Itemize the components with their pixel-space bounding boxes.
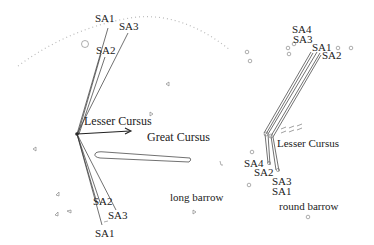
label-lesser-cursus-right: Lesser Cursus bbox=[277, 137, 339, 149]
marker-icon bbox=[104, 221, 108, 222]
label-sa2-top: SA2 bbox=[322, 49, 342, 61]
marker-icon bbox=[220, 161, 223, 165]
sightline-diagram: SA1 SA3 SA2 Lesser Cursus Great Cursus l… bbox=[0, 0, 374, 245]
marker-icon bbox=[166, 82, 169, 86]
sightline-sa4-bottom bbox=[265, 134, 268, 163]
label-sa3-top: SA3 bbox=[119, 20, 139, 32]
label-sa1-top: SA1 bbox=[95, 12, 115, 24]
label-sa1-bottom: SA1 bbox=[272, 185, 292, 197]
sightline-sa2-bottom bbox=[268, 134, 270, 165]
sightline-sa2-top bbox=[271, 53, 320, 136]
great-cursus-shape bbox=[95, 152, 191, 162]
left-panel: SA1 SA3 SA2 Lesser Cursus Great Cursus l… bbox=[33, 12, 224, 239]
barrow-circle bbox=[286, 46, 290, 50]
label-sa3-bottom: SA3 bbox=[108, 209, 128, 221]
label-long-barrow: long barrow bbox=[170, 191, 224, 203]
sightline-sa1-top bbox=[268, 52, 317, 134]
sightline-extra-top bbox=[273, 55, 321, 137]
label-sa2-top: SA2 bbox=[96, 44, 116, 56]
barrow-circle bbox=[287, 52, 291, 56]
barrow-circle bbox=[247, 183, 251, 187]
label-sa1-bottom: SA1 bbox=[95, 227, 115, 239]
label-sa2-bottom: SA2 bbox=[254, 166, 274, 178]
marker-icon bbox=[55, 212, 58, 216]
label-great-cursus: Great Cursus bbox=[147, 130, 210, 144]
label-lesser-cursus: Lesser Cursus bbox=[84, 114, 152, 128]
marker-icon bbox=[33, 147, 36, 151]
right-panel: SA4 SA3 SA1 SA2 Lesser Cursus SA4 SA2 SA… bbox=[244, 23, 353, 219]
marker-icon bbox=[56, 192, 59, 196]
sightline-sa4-top bbox=[264, 52, 311, 133]
label-round-barrow: round barrow bbox=[279, 200, 339, 212]
sightline-sa2-bottom-a bbox=[77, 134, 97, 203]
barrow-circle bbox=[82, 41, 89, 48]
marker-icon bbox=[67, 210, 71, 213]
barrow-circle bbox=[306, 215, 310, 219]
barrow-circle bbox=[245, 50, 249, 54]
label-sa2-bottom: SA2 bbox=[93, 195, 113, 207]
barrow-circle bbox=[250, 150, 254, 154]
marker-icon bbox=[193, 210, 196, 214]
barrow-circle bbox=[248, 59, 252, 63]
label-sa3-top: SA3 bbox=[293, 33, 313, 45]
arrow-great-cursus bbox=[77, 131, 130, 134]
lesser-cursus-dashes bbox=[281, 124, 302, 133]
barrow-circle bbox=[349, 46, 353, 50]
sightline-sa3-top bbox=[266, 53, 313, 134]
